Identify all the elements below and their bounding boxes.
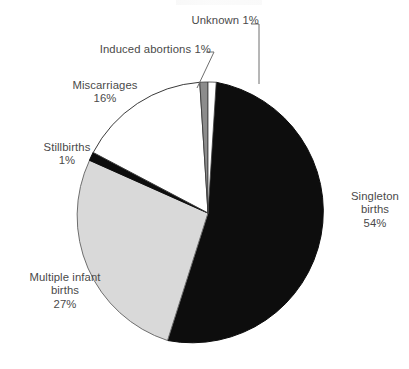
pie-label-miscarriages: Miscarriages 16% <box>48 79 162 106</box>
pie-label-induced-abortions: Induced abortions 1% <box>44 43 211 56</box>
pie-label-stillbirths: Stillbirths 1% <box>21 141 113 168</box>
pie-label-unknown: Unknown 1% <box>139 14 259 27</box>
leader-line-unknown <box>251 24 259 84</box>
pie-chart: Unknown 1% Induced abortions 1% Miscarri… <box>0 0 409 369</box>
pie-label-multiple-infant-births: Multiple infant births 27% <box>6 271 124 311</box>
pie-label-singleton-births: Singleton births 54% <box>342 190 408 230</box>
